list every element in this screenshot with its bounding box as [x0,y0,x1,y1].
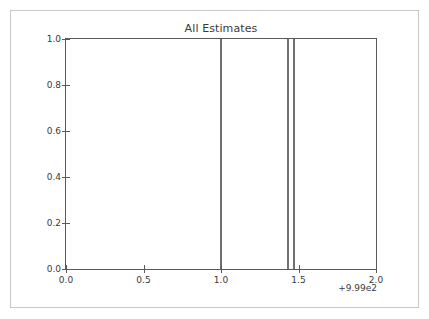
x-tick-label: 1.0 [214,275,228,285]
y-tick-mark-inner [66,223,70,224]
data-vline [287,39,289,269]
chart-root: All Estimates 0.00.20.40.60.81.00.00.51.… [0,0,429,319]
chart-title: All Estimates [65,22,377,35]
x-tick-label: 0.5 [136,275,150,285]
x-tick-mark-inner [66,265,67,269]
y-tick-mark-inner [66,177,70,178]
plot-area: 0.00.20.40.60.81.00.00.51.01.52.0 [65,38,377,270]
x-tick-label: 0.0 [59,275,73,285]
y-tick-mark-inner [66,131,70,132]
y-tick-mark-inner [66,39,70,40]
y-tick-label: 0.8 [47,80,61,90]
plot-canvas [66,39,376,269]
x-tick-mark [221,269,222,273]
x-axis-offset-label: +9.99e2 [338,283,377,293]
y-tick-label: 1.0 [47,34,61,44]
x-tick-mark [299,269,300,273]
x-tick-mark [66,269,67,273]
y-tick-label: 0.0 [47,264,61,274]
y-tick-label: 0.4 [47,172,61,182]
x-tick-mark-inner [376,265,377,269]
data-vline [220,39,222,269]
y-tick-label: 0.6 [47,126,61,136]
y-tick-mark-inner [66,85,70,86]
x-tick-mark-inner [221,265,222,269]
x-tick-label: 1.5 [291,275,305,285]
x-tick-mark-inner [144,265,145,269]
x-tick-mark [144,269,145,273]
data-vline [293,39,295,269]
x-tick-mark-inner [299,265,300,269]
x-tick-mark [376,269,377,273]
y-tick-label: 0.2 [47,218,61,228]
